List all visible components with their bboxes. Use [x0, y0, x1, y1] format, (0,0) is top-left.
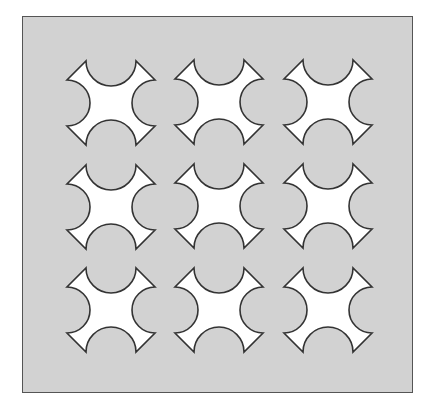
tile-grid [0, 0, 442, 407]
tile-r1-c3 [284, 60, 372, 144]
tile-r2-c3 [284, 164, 372, 248]
tile-r1-c1 [67, 61, 155, 145]
tile-r3-c1 [67, 268, 155, 352]
tile-r1-c2 [175, 60, 263, 144]
tile-r3-c3 [284, 268, 372, 352]
tile-r2-c2 [175, 164, 263, 248]
tile-r2-c1 [67, 165, 155, 249]
tile-r3-c2 [175, 268, 263, 352]
